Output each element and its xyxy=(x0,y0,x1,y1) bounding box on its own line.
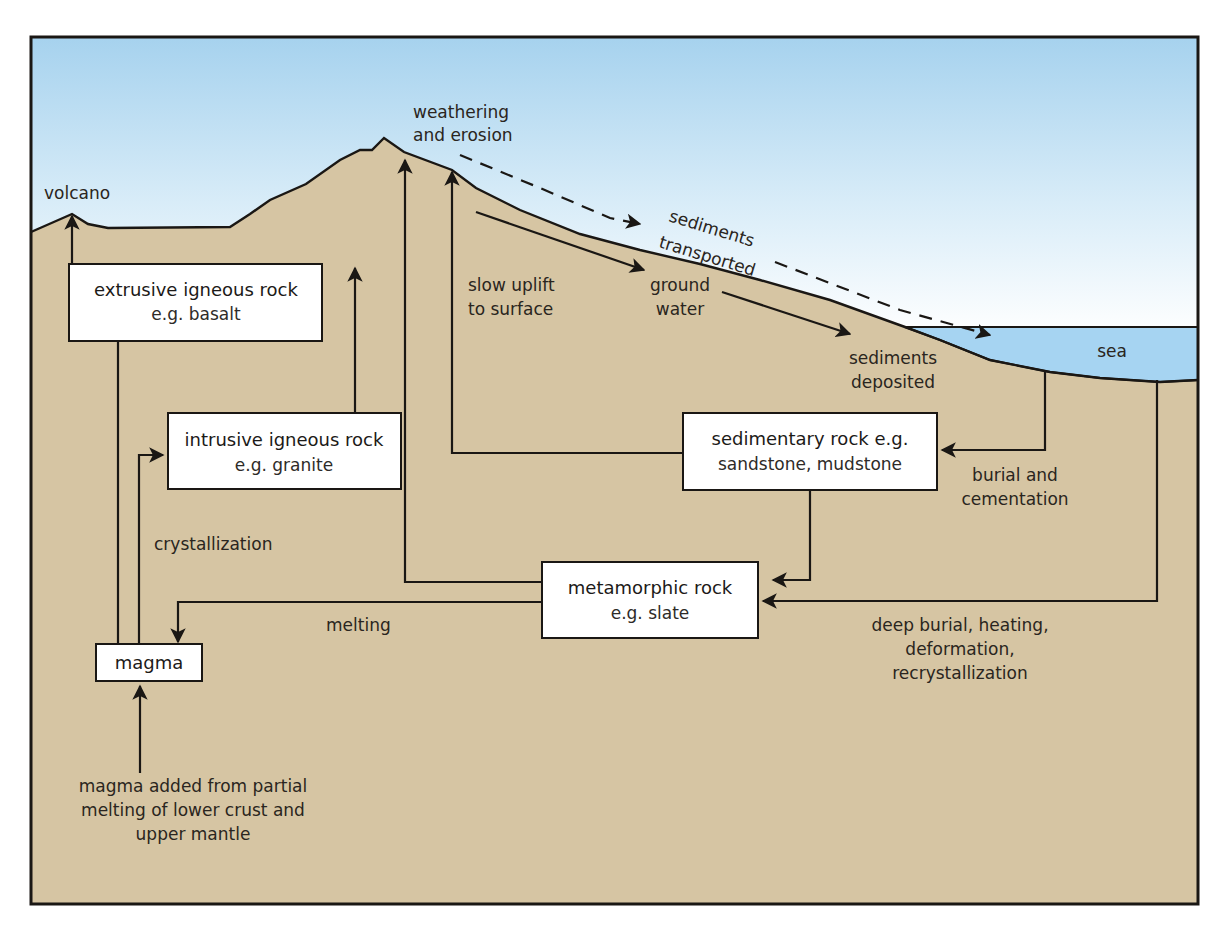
magma-box: magma xyxy=(96,644,202,681)
label-ground-water-1: ground xyxy=(650,275,710,295)
metamorphic-title: metamorphic rock xyxy=(568,577,733,598)
intrusive-example: e.g. granite xyxy=(235,455,333,475)
rock-cycle-diagram: extrusive igneous rock e.g. basalt intru… xyxy=(0,0,1224,931)
extrusive-igneous-box: extrusive igneous rock e.g. basalt xyxy=(69,264,322,341)
sedimentary-rock-box: sedimentary rock e.g. sandstone, mudston… xyxy=(683,413,937,490)
intrusive-title: intrusive igneous rock xyxy=(185,429,384,450)
label-weathering-1: weathering xyxy=(413,102,509,122)
metamorphic-rock-box: metamorphic rock e.g. slate xyxy=(542,562,758,638)
metamorphic-example: e.g. slate xyxy=(611,603,690,623)
label-crystallization: crystallization xyxy=(154,534,272,554)
label-slow-uplift-2: to surface xyxy=(468,299,553,319)
label-deep-burial-1: deep burial, heating, xyxy=(871,615,1048,635)
intrusive-igneous-box: intrusive igneous rock e.g. granite xyxy=(168,413,401,489)
label-magma-added-2: melting of lower crust and xyxy=(81,800,305,820)
label-deep-burial-2: deformation, xyxy=(905,639,1014,659)
label-sediments-deposited-2: deposited xyxy=(851,372,935,392)
label-magma-added-1: magma added from partial xyxy=(79,776,308,796)
extrusive-example: e.g. basalt xyxy=(151,304,241,324)
sedimentary-title: sedimentary rock e.g. xyxy=(712,428,909,449)
label-burial-2: cementation xyxy=(961,489,1068,509)
sedimentary-example: sandstone, mudstone xyxy=(718,454,902,474)
label-magma-added-3: upper mantle xyxy=(136,824,251,844)
label-melting: melting xyxy=(326,615,391,635)
label-deep-burial-3: recrystallization xyxy=(892,663,1028,683)
label-sediments-deposited-1: sediments xyxy=(849,348,937,368)
label-sea: sea xyxy=(1097,341,1127,361)
label-slow-uplift-1: slow uplift xyxy=(468,275,555,295)
label-weathering-2: and erosion xyxy=(413,125,513,145)
magma-title: magma xyxy=(115,652,184,673)
label-volcano: volcano xyxy=(44,183,110,203)
extrusive-title: extrusive igneous rock xyxy=(94,279,298,300)
label-burial-1: burial and xyxy=(972,465,1058,485)
label-ground-water-2: water xyxy=(656,299,704,319)
